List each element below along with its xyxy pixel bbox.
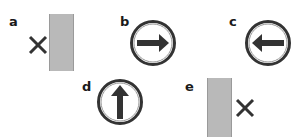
x-mark-icon (28, 35, 48, 55)
arrow-up-circle-icon (96, 78, 144, 126)
panel-label-e: e (185, 80, 194, 93)
panel-label-a: a (9, 15, 18, 28)
gray-bar (207, 78, 232, 137)
x-mark-icon (235, 98, 255, 118)
panel-label-b: b (120, 15, 129, 28)
panel-label-c: c (229, 15, 237, 28)
gray-bar (49, 14, 74, 71)
panel-label-d: d (82, 80, 91, 93)
arrow-right-circle-icon (129, 19, 177, 67)
arrow-left-circle-icon (244, 19, 292, 67)
